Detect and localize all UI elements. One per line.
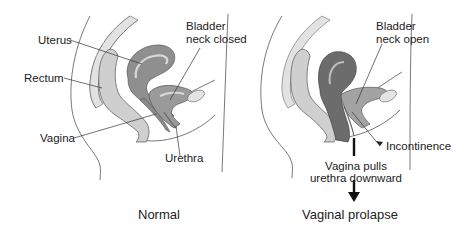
label-incontinence: Incontinence [386,140,451,152]
caption-normal: Normal [138,207,180,222]
label-bladder-neck-closed-2: neck closed [186,33,247,45]
label-urethra: Urethra [165,152,203,164]
label-vagina: Vagina [40,132,75,144]
label-bladder-neck-open-2: neck open [376,33,429,45]
incontinence-arrowhead [376,141,383,146]
prolapse-bladder [341,87,388,128]
label-pull-1: Vagina pulls [314,160,398,172]
pull-arrowhead [348,192,360,202]
label-pull-2: urethra downward [306,172,406,184]
label-bladder-neck-open-1: Bladder [376,20,416,32]
label-bladder-neck-closed-1: Bladder [186,20,226,32]
label-uterus: Uterus [38,34,72,46]
caption-prolapse: Vaginal prolapse [302,207,398,222]
label-rectum: Rectum [24,72,64,84]
